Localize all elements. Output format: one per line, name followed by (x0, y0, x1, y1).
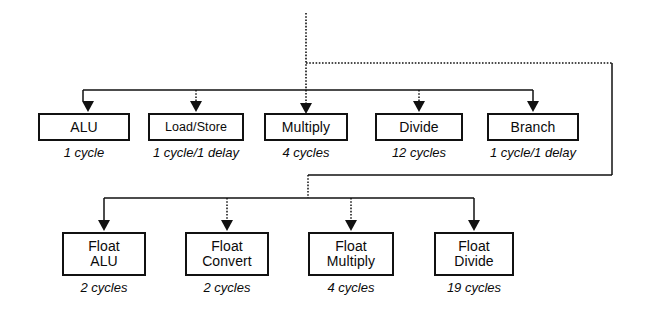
unit-label: Multiply (282, 120, 330, 135)
unit-caption-float-alu: 2 cycles (58, 281, 150, 295)
unit-caption-divide: 12 cycles (371, 146, 467, 160)
integer-distribution-bus (82, 90, 539, 112)
unit-label: Float Convert (202, 239, 252, 269)
unit-box-divide[interactable]: Divide (375, 113, 463, 141)
unit-label: Float ALU (88, 239, 120, 269)
unit-box-multiply[interactable]: Multiply (264, 113, 348, 141)
unit-label: Load/Store (165, 120, 227, 135)
unit-box-alu[interactable]: ALU (38, 113, 130, 141)
dispatch-trunk (300, 13, 312, 114)
unit-caption-multiply: 4 cycles (260, 146, 352, 160)
unit-caption-alu: 1 cycle (38, 146, 130, 160)
unit-caption-float-multiply: 4 cycles (305, 281, 397, 295)
unit-box-load-store[interactable]: Load/Store (148, 113, 244, 141)
unit-caption-float-convert: 2 cycles (181, 281, 273, 295)
unit-label: Float Multiply (327, 239, 375, 269)
unit-box-float-convert[interactable]: Float Convert (185, 232, 269, 276)
unit-box-float-alu[interactable]: Float ALU (62, 232, 146, 276)
unit-box-float-multiply[interactable]: Float Multiply (308, 232, 394, 276)
unit-label: Divide (399, 120, 439, 135)
unit-caption-float-divide: 19 cycles (428, 281, 520, 295)
unit-label: Branch (511, 120, 556, 135)
unit-caption-branch: 1 cycle/1 delay (475, 146, 591, 160)
functional-unit-diagram: ALU 1 cycle Load/Store 1 cycle/1 delay M… (0, 0, 648, 309)
unit-label: ALU (70, 120, 98, 135)
unit-label: Float Divide (454, 239, 494, 269)
fp-distribution-bus (98, 198, 480, 231)
unit-caption-load-store: 1 cycle/1 delay (138, 146, 254, 160)
unit-box-branch[interactable]: Branch (487, 113, 579, 141)
unit-box-float-divide[interactable]: Float Divide (434, 232, 514, 276)
